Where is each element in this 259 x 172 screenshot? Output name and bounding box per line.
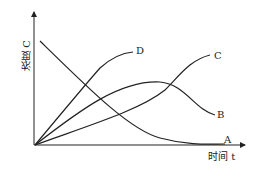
label-c: C — [214, 51, 222, 61]
curve-a — [40, 41, 225, 144]
x-axis-label: 时间 t — [208, 152, 235, 162]
curve-d — [35, 52, 133, 145]
label-a: A — [224, 135, 231, 145]
label-b: B — [217, 110, 224, 120]
curve-c — [35, 55, 210, 145]
y-axis-label: 浓度 C — [19, 40, 34, 71]
label-d: D — [136, 46, 144, 56]
concentration-time-diagram — [0, 0, 259, 172]
